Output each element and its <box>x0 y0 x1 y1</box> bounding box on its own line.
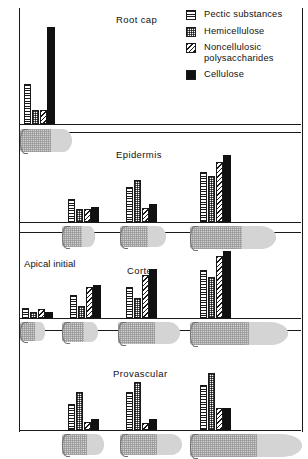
cell-wall-icon <box>20 129 28 154</box>
panel-title-root-cap: Root cap <box>116 14 157 25</box>
bar-cellulose <box>93 285 100 318</box>
bar-noncellulosic <box>84 422 91 430</box>
bar-pectic <box>68 404 75 430</box>
bar-cellulose <box>45 312 52 318</box>
bar-hemicellulose <box>208 176 215 222</box>
bar-noncellulosic <box>38 309 45 318</box>
bar-noncellulosic <box>216 256 223 318</box>
cell-tip <box>155 322 180 344</box>
bar-noncellulosic <box>142 275 149 318</box>
cell-tip <box>257 434 302 457</box>
bar-group <box>24 123 55 124</box>
legend-swatch-noncellulosic-icon <box>186 43 196 53</box>
legend-label-pectic: Pectic substances <box>204 9 306 20</box>
panel-title-provascular: Provascular <box>113 368 168 379</box>
cell-wall-icon <box>62 322 70 344</box>
legend-item-noncellulosic: Noncellulosic polysaccharides <box>186 42 306 63</box>
bar-pectic <box>22 308 29 318</box>
bar-hemicellulose <box>32 110 39 124</box>
bar-pectic <box>200 270 207 318</box>
bar-group <box>126 221 157 222</box>
bar-hemicellulose <box>30 312 37 318</box>
bar-noncellulosic <box>86 287 93 319</box>
bar-group <box>22 317 53 318</box>
panel-title-epidermis: Epidermis <box>116 149 162 160</box>
bar-cellulose <box>149 419 156 430</box>
cell-wall-icon <box>120 226 128 249</box>
axis-rule-4 <box>19 318 301 319</box>
bar-pectic <box>126 392 133 430</box>
legend: Pectic substances Hemicellulose Noncellu… <box>186 9 306 85</box>
bar-pectic <box>70 295 77 318</box>
cell-tip <box>51 129 72 152</box>
bar-group <box>126 317 157 318</box>
cell-tip <box>35 322 45 341</box>
legend-label-cellulose: Cellulose <box>204 69 306 80</box>
cell-diagram <box>120 434 182 455</box>
cell-diagram <box>20 129 72 152</box>
cell-diagram <box>62 434 104 455</box>
cell-diagram <box>120 226 166 247</box>
cell-diagram <box>118 322 180 344</box>
bar-pectic <box>126 187 133 222</box>
bar-pectic <box>126 287 133 319</box>
cell-diagram <box>20 322 45 341</box>
cell-tip <box>242 226 276 249</box>
cell-tip <box>249 322 288 345</box>
axis-rule-6 <box>19 430 301 431</box>
cell-wall-icon <box>120 434 128 457</box>
cell-wall-icon <box>190 322 198 347</box>
bar-hemicellulose <box>134 298 141 318</box>
cell-tip <box>148 226 166 247</box>
bar-cellulose <box>223 155 230 222</box>
bar-pectic <box>24 84 31 124</box>
legend-label-hemicellulose: Hemicellulose <box>204 26 306 37</box>
label-apical-initial: Apical initial <box>24 259 70 270</box>
cell-diagram <box>190 434 302 457</box>
bar-group <box>200 221 231 222</box>
bar-group <box>200 429 231 430</box>
legend-item-hemicellulose: Hemicellulose <box>186 26 306 37</box>
cell-wall-icon <box>190 226 198 251</box>
bar-noncellulosic <box>84 209 91 222</box>
axis-rule-2 <box>19 222 301 223</box>
cell-diagram <box>190 226 276 249</box>
cell-wall-icon <box>190 434 198 459</box>
legend-label-noncellulosic: Noncellulosic polysaccharides <box>204 42 306 63</box>
cell-tip <box>82 226 95 247</box>
bar-pectic <box>200 172 207 222</box>
bar-hemicellulose <box>78 306 85 318</box>
cell-wall-icon <box>118 322 126 346</box>
legend-swatch-pectic-icon <box>186 10 196 20</box>
bar-hemicellulose <box>76 209 83 222</box>
bar-group <box>68 221 99 222</box>
cell-diagram <box>62 322 98 342</box>
bar-cellulose <box>91 207 98 222</box>
legend-swatch-cellulose-icon <box>186 70 196 80</box>
axis-rule-0 <box>19 124 301 125</box>
cell-tip <box>157 434 182 455</box>
bar-cellulose <box>149 269 156 318</box>
bar-group <box>126 429 157 430</box>
bar-noncellulosic <box>216 408 223 430</box>
cell-tip <box>84 322 98 342</box>
bar-hemicellulose <box>134 180 141 222</box>
bar-cellulose <box>47 27 54 124</box>
bar-hemicellulose <box>76 392 83 430</box>
bar-pectic <box>200 385 207 430</box>
bar-noncellulosic <box>142 208 149 222</box>
cell-diagram <box>190 322 288 345</box>
bar-cellulose <box>91 419 98 430</box>
bar-noncellulosic <box>216 162 223 222</box>
bar-hemicellulose <box>208 277 215 318</box>
bar-cellulose <box>223 251 230 318</box>
bar-group <box>68 429 99 430</box>
cell-wall-icon <box>20 322 28 343</box>
cell-tip <box>87 434 104 455</box>
bar-noncellulosic <box>40 110 47 124</box>
bar-cellulose <box>149 204 156 222</box>
bar-hemicellulose <box>208 373 215 430</box>
legend-swatch-hemicellulose-icon <box>186 27 196 37</box>
bar-group <box>70 317 101 318</box>
